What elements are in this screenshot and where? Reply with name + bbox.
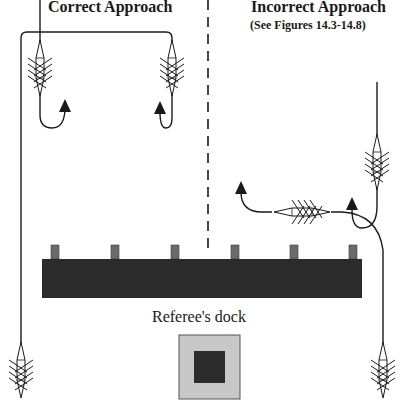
boat-icon	[371, 342, 395, 398]
referee-dock	[179, 335, 240, 399]
incorrect-approach-subtitle: (See Figures 14.3-14.8)	[250, 18, 366, 33]
approach-diagram	[0, 0, 406, 411]
boat-icon	[365, 134, 389, 190]
incorrect-approach-title: Incorrect Approach	[251, 0, 386, 16]
boat-icon	[9, 342, 33, 398]
dock-post	[171, 245, 179, 259]
arrowhead-icon	[235, 181, 247, 194]
boat-icon	[28, 40, 52, 96]
dock-post	[111, 245, 119, 259]
boat-icon	[274, 200, 330, 224]
dock-post	[290, 245, 298, 259]
dock-post	[349, 245, 357, 259]
boat-icon	[160, 40, 184, 96]
main-dock	[42, 245, 362, 298]
arrowhead-icon	[346, 197, 358, 210]
dock-post	[231, 245, 239, 259]
diagram-canvas: Correct Approach Incorrect Approach (See…	[0, 0, 406, 411]
dock-post	[51, 245, 59, 259]
correct-approach-title: Correct Approach	[48, 0, 172, 16]
referee-dock-label: Referee's dock	[152, 308, 246, 326]
dock-platform	[42, 259, 362, 298]
arrowhead-icon	[154, 101, 166, 114]
arrowhead-icon	[59, 99, 71, 112]
